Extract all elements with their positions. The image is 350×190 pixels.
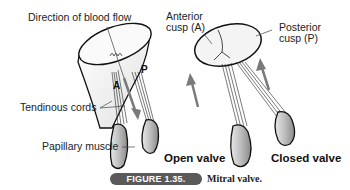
closed-valve-title: Closed valve [271,153,341,164]
figure-number-badge: FIGURE 1.35. [110,173,202,185]
label-papillary-muscle: Papillary muscle [42,141,118,152]
label-posterior-cusp-2: cusp (P) [279,33,318,44]
cusp-p-marker: P [141,64,148,75]
figure-caption: Mitral valve. [207,173,262,185]
open-valve-title: Open valve [164,153,225,164]
label-tendinous-cords: Tendinous cords [20,102,96,113]
label-anterior-cusp-2: cusp (A) [166,22,205,33]
cusp-a-marker: A [113,80,120,91]
label-blood-flow: Direction of blood flow [28,12,131,23]
